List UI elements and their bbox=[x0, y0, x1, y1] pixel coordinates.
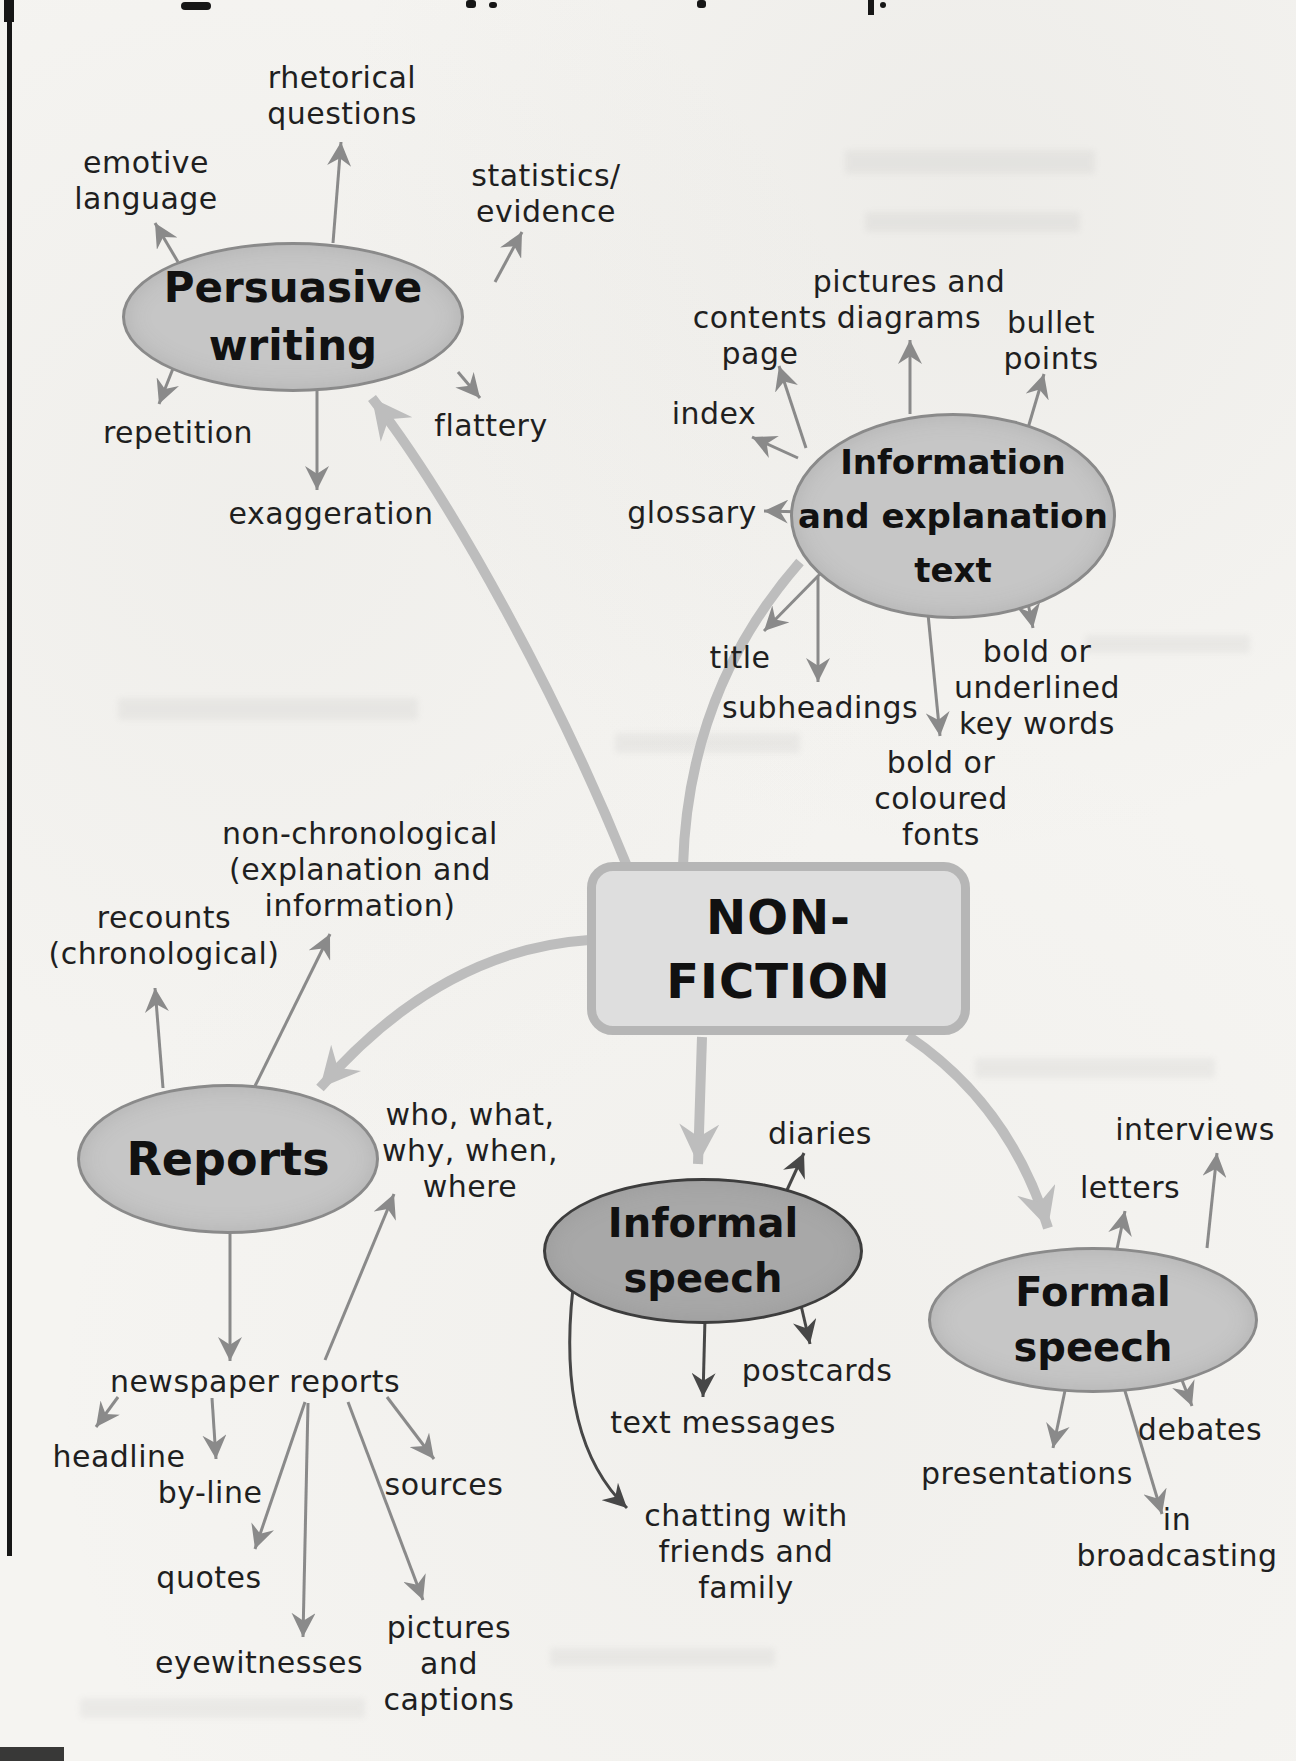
label-newspaper-reports: newspaper reports bbox=[110, 1364, 400, 1400]
label-exaggeration: exaggeration bbox=[229, 496, 434, 532]
arrow-persuasive-emotive-language bbox=[155, 223, 178, 262]
label-interviews: interviews bbox=[1115, 1112, 1275, 1148]
label-bold-or-underlined-key-words: bold or underlined key words bbox=[954, 634, 1120, 742]
arrow-persuasive-flattery bbox=[458, 372, 480, 398]
cropped-heading-mark bbox=[880, 2, 886, 8]
label-title: title bbox=[709, 640, 770, 676]
arrow-informal-text-messages bbox=[703, 1318, 705, 1397]
label-headline: headline bbox=[52, 1439, 185, 1475]
arrow-newspaper-five-ws bbox=[325, 1194, 394, 1360]
mindmap-page: Persuasive writing Information and expla… bbox=[0, 0, 1296, 1761]
scan-smudge bbox=[0, 1747, 64, 1761]
label-subheadings: subheadings bbox=[722, 690, 918, 726]
node-information-explanation-text: Information and explanation text bbox=[790, 413, 1116, 619]
node-informal-speech: Informal speech bbox=[543, 1178, 863, 1324]
label-non-chronological: non-chronological (explanation and infor… bbox=[222, 816, 498, 924]
arrow-formal-letters bbox=[1117, 1211, 1125, 1249]
label-letters: letters bbox=[1080, 1170, 1180, 1206]
arrow-information-bullet-points bbox=[1028, 374, 1044, 428]
label-pictures-and-diagrams: pictures and diagrams bbox=[813, 264, 1005, 336]
node-persuasive-writing: Persuasive writing bbox=[122, 242, 464, 392]
label-statistics-evidence: statistics/ evidence bbox=[471, 158, 620, 230]
label-sources: sources bbox=[385, 1467, 504, 1503]
cropped-heading-mark bbox=[181, 2, 211, 10]
arrow-newspaper-eyewitnesses bbox=[303, 1403, 308, 1637]
arrow-formal-interviews bbox=[1207, 1153, 1217, 1248]
page-edge-corner bbox=[4, 0, 14, 22]
label-diaries: diaries bbox=[768, 1116, 872, 1152]
arrow-newspaper-headline bbox=[96, 1397, 118, 1427]
label-bullet-points: bullet points bbox=[1003, 305, 1098, 377]
label-debates: debates bbox=[1138, 1412, 1262, 1448]
cropped-heading-mark bbox=[466, 0, 476, 8]
label-eyewitnesses: eyewitnesses bbox=[155, 1645, 363, 1681]
cropped-heading-mark bbox=[868, 0, 874, 15]
arrow-informal-chatting bbox=[570, 1288, 627, 1508]
node-formal-speech: Formal speech bbox=[928, 1247, 1258, 1393]
arrow-reports-recounts bbox=[155, 988, 163, 1088]
label-postcards: postcards bbox=[742, 1353, 893, 1389]
connector-nonfiction-formal bbox=[908, 1036, 1048, 1228]
label-emotive-language: emotive language bbox=[74, 145, 218, 217]
connector-nonfiction-informal bbox=[698, 1037, 702, 1164]
label-presentations: presentations bbox=[921, 1456, 1133, 1492]
label-contents-page: contents page bbox=[693, 300, 828, 372]
label-text-messages: text messages bbox=[610, 1405, 836, 1441]
label-bold-or-coloured-fonts: bold or coloured fonts bbox=[874, 745, 1008, 853]
arrow-information-bold-coloured-fonts bbox=[928, 614, 940, 736]
node-non-fiction: NON- FICTION bbox=[587, 862, 970, 1035]
arrow-newspaper-sources bbox=[387, 1397, 434, 1459]
arrow-informal-diaries bbox=[787, 1153, 804, 1190]
connector-nonfiction-reports bbox=[320, 940, 589, 1088]
cropped-heading-mark bbox=[697, 0, 706, 8]
label-pictures-and-captions: pictures and captions bbox=[383, 1610, 514, 1718]
label-quotes: quotes bbox=[156, 1560, 261, 1596]
label-glossary: glossary bbox=[627, 495, 756, 531]
label-index: index bbox=[672, 396, 757, 432]
arrow-information-index bbox=[752, 437, 798, 458]
label-flattery: flattery bbox=[434, 408, 547, 444]
node-reports: Reports bbox=[77, 1084, 379, 1234]
arrow-newspaper-by-line bbox=[212, 1398, 216, 1459]
arrow-persuasive-rhetorical-questions bbox=[333, 142, 341, 243]
label-rhetorical-questions: rhetorical questions bbox=[267, 60, 417, 132]
arrow-persuasive-statistics-evidence bbox=[495, 232, 522, 282]
label-in-broadcasting: in broadcasting bbox=[1076, 1502, 1277, 1574]
label-five-ws: who, what, why, when, where bbox=[382, 1097, 558, 1205]
connector-nonfiction-persuasive bbox=[372, 398, 627, 866]
label-chatting: chatting with friends and family bbox=[644, 1498, 848, 1606]
label-repetition: repetition bbox=[103, 415, 253, 451]
page-edge-line bbox=[7, 0, 12, 1556]
label-by-line: by-line bbox=[158, 1475, 263, 1511]
cropped-heading-mark bbox=[489, 2, 497, 8]
arrow-newspaper-quotes bbox=[255, 1402, 305, 1549]
